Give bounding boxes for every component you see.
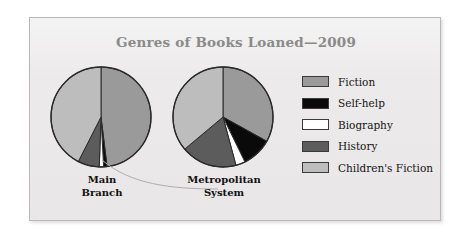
legend-label-self-help: Self-help [338,97,385,109]
pie-slice-fiction [101,67,151,167]
pie-caption-metropolitan-system: Metropolitan System [149,174,299,199]
legend-swatch-self-help [302,98,329,109]
legend-swatch-childrens-fiction [302,162,329,173]
pie-chart-metropolitan-system [170,64,276,170]
legend-label-history: History [338,140,377,152]
legend-label-fiction: Fiction [338,76,375,88]
legend-item-history: History [302,136,442,158]
legend-swatch-history [302,141,329,152]
legend-swatch-biography [302,119,329,130]
legend-swatch-fiction [302,76,329,87]
legend-item-biography: Biography [302,114,442,136]
legend-label-childrens-fiction: Children's Fiction [338,162,433,174]
chart-legend: Fiction Self-help Biography History Chil… [302,71,442,179]
legend-label-biography: Biography [338,119,393,131]
legend-item-fiction: Fiction [302,71,442,93]
pie-svg-main-branch [48,64,154,170]
legend-item-self-help: Self-help [302,93,442,115]
pie-svg-metropolitan-system [170,64,276,170]
pie-chart-main-branch [48,64,154,170]
chart-panel: Genres of Books Loaned—2009 Main Branch … [29,17,441,221]
figure-canvas: Genres of Books Loaned—2009 Main Branch … [0,0,472,241]
chart-title: Genres of Books Loaned—2009 [30,34,442,50]
legend-item-childrens-fiction: Children's Fiction [302,157,442,179]
